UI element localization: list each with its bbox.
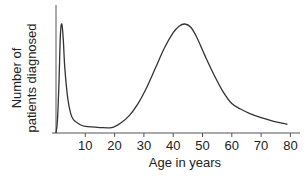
x-tick-label: 10	[73, 138, 97, 153]
x-tick-label: 80	[278, 138, 302, 153]
x-axis-label: Age in years	[110, 155, 260, 170]
y-axis-label: Number of patients diagnosed	[9, 13, 49, 143]
x-tick-label: 30	[132, 138, 156, 153]
x-tick-label: 20	[103, 138, 127, 153]
x-tick-label: 50	[191, 138, 215, 153]
y-axis-label-line1: Number of	[9, 13, 24, 143]
x-tick-label: 60	[220, 138, 244, 153]
x-axis-ticks	[85, 133, 290, 137]
data-line	[56, 24, 287, 133]
y-axis-label-line2: patients diagnosed	[24, 13, 39, 143]
x-tick-label: 70	[249, 138, 273, 153]
x-tick-label: 40	[161, 138, 185, 153]
